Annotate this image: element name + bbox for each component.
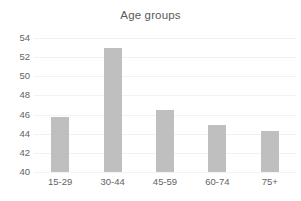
y-tick-label: 50 [0,71,30,81]
x-tick-label: 45-59 [153,176,177,188]
x-tick-label: 30-44 [100,176,124,188]
plot-area [34,38,296,172]
y-axis: 4042444648505254 [0,38,30,172]
y-tick-label: 54 [0,33,30,43]
gridline [34,76,296,77]
bar [156,110,174,172]
x-tick-label: 15-29 [48,176,72,188]
y-tick-label: 42 [0,148,30,158]
x-axis: 15-2930-4445-5960-7475+ [34,176,296,192]
gridline [34,57,296,58]
gridline [34,95,296,96]
x-tick-label: 75+ [262,176,278,188]
bar-chart: Age groups 4042444648505254 15-2930-4445… [0,0,301,201]
y-tick-label: 48 [0,90,30,100]
y-tick-label: 52 [0,52,30,62]
y-tick-label: 40 [0,167,30,177]
y-tick-label: 46 [0,110,30,120]
x-tick-label: 60-74 [205,176,229,188]
chart-title: Age groups [0,8,301,22]
bar [208,125,226,172]
y-tick-label: 44 [0,129,30,139]
gridline [34,38,296,39]
bar [51,117,69,173]
gridline [34,172,296,173]
bar [261,131,279,172]
bar [104,48,122,172]
